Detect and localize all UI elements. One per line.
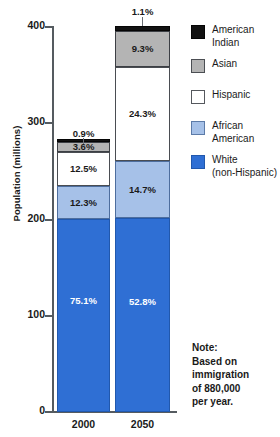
x-category-label-2050: 2050 [115,418,170,430]
y-tick-label-100: 100 [3,308,45,320]
note-line-2: Based on [192,355,278,369]
segment-label-2050-asian: 9.3% [132,44,154,54]
note-line-1: Note: [192,341,278,355]
legend-swatch-hispanic-icon [191,90,205,104]
legend-item-white-non-hispanic[interactable]: White (non-Hispanic) [191,154,279,179]
legend-label-african-american: African American [212,120,254,145]
y-tick-label-200: 200 [3,212,45,224]
legend-swatch-african-american-icon [191,121,205,135]
note-line-5: per year. [192,395,278,409]
legend-label-american-indian: American Indian [212,24,254,49]
bar-2050[interactable]: 9.3% 24.3% 14.7% 52.8% [115,26,170,412]
legend-swatch-american-indian-icon [191,25,205,39]
segment-label-2050-african-american: 14.7% [129,185,156,195]
legend-item-hispanic[interactable]: Hispanic [191,89,279,104]
y-tick-label-300: 300 [3,115,45,127]
callout-leader-line-2050 [142,17,143,26]
x-category-label-2000: 2000 [57,418,110,430]
y-tick-label-0: 0 [3,404,45,416]
legend-label-american-indian-line2: Indian [212,37,239,48]
segment-2000-hispanic[interactable]: 12.5% [57,152,110,186]
legend-item-african-american[interactable]: African American [191,120,279,145]
note-line-3: immigration [192,368,278,382]
callout-label-2050-american-indian: 1.1% [132,6,154,17]
bar-2000[interactable]: 3.6% 12.5% 12.3% 75.1% [57,139,110,412]
segment-2050-african-american[interactable]: 14.7% [115,161,170,218]
legend-item-asian[interactable]: Asian [191,58,279,73]
legend-item-american-indian[interactable]: American Indian [191,24,279,49]
segment-label-2050-hispanic: 24.3% [129,109,156,119]
segment-2050-hispanic[interactable]: 24.3% [115,67,170,161]
segment-2000-african-american[interactable]: 12.3% [57,186,110,219]
segment-label-2000-african-american: 12.3% [70,198,97,208]
segment-label-2000-white-non-hispanic: 75.1% [70,296,97,306]
segment-2050-asian[interactable]: 9.3% [115,31,170,67]
callout-leader-line-2000 [83,138,84,144]
y-tick-label-400: 400 [3,19,45,31]
legend-label-asian: Asian [212,58,237,71]
chart-note: Note: Based on immigration of 880,000 pe… [192,341,278,409]
segment-label-2050-white-non-hispanic: 52.8% [129,297,156,307]
legend-label-hispanic: Hispanic [212,89,250,102]
legend-swatch-white-non-hispanic-icon [191,155,205,169]
legend-label-american-indian-line1: American [212,24,254,35]
callout-2050-american-indian: 1.1% [115,6,170,17]
legend-label-african-american-line2: American [212,133,254,144]
legend-label-african-american-line1: African [212,120,243,131]
segment-label-2000-hispanic: 12.5% [70,164,97,174]
legend-label-white-non-hispanic: White (non-Hispanic) [212,154,277,179]
stacked-bar-chart: Population (millions) 400 300 200 100 0 … [0,0,280,437]
legend-label-white-non-hispanic-line2: (non-Hispanic) [212,167,277,178]
legend-swatch-asian-icon [191,59,205,73]
note-line-4: of 880,000 [192,382,278,396]
legend: American Indian Asian Hispanic African A… [191,24,279,188]
segment-2000-white-non-hispanic[interactable]: 75.1% [57,219,110,412]
legend-label-white-non-hispanic-line1: White [212,154,238,165]
segment-2050-white-non-hispanic[interactable]: 52.8% [115,218,170,412]
